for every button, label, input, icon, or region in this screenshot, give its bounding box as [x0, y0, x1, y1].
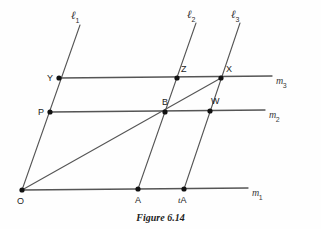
point-label-P: P [38, 108, 44, 117]
transversal-label-l2-subscript: 2 [192, 16, 196, 23]
point-marker-B [162, 109, 167, 114]
point-label-B: B [162, 98, 168, 107]
transversal-label-l1: ℓ1 [71, 6, 80, 24]
parallel-label-m2-base: m [269, 109, 276, 120]
point-label-O: O [17, 197, 24, 206]
point-label-text-P: P [38, 107, 44, 117]
point-label-text-A: A [135, 195, 141, 205]
point-label-text-Y: Y [47, 73, 53, 83]
parallel-line-group [22, 76, 272, 190]
point-label-text-B: B [162, 97, 168, 107]
parallel-label-m3-base: m [276, 75, 283, 86]
diagonal-ray-o-to-x [22, 78, 221, 190]
transversal-line-l1 [22, 25, 80, 190]
point-marker-W [207, 108, 212, 113]
parallel-label-m3: m3 [276, 71, 287, 89]
point-label-tA: tA [178, 196, 187, 205]
point-marker-Z [174, 75, 179, 80]
parallel-label-m2-subscript: 2 [276, 116, 280, 123]
point-marker-O [19, 187, 24, 192]
point-label-X: X [226, 65, 232, 74]
point-marker-P [47, 109, 52, 114]
point-label-W: W [211, 97, 220, 106]
parallel-label-m1-base: m [252, 187, 259, 198]
transversal-label-l2: ℓ2 [187, 5, 196, 23]
point-label-text-tA: A [181, 195, 187, 205]
figure-caption: Figure 6.14 [0, 212, 321, 223]
transversal-label-l1-subscript: 1 [76, 17, 80, 24]
point-marker-X [218, 75, 223, 80]
point-marker-Y [56, 75, 61, 80]
figure-6-14: OAtAPBWYZX ℓ1ℓ2ℓ3 m1m2m3 Figure 6.14 [0, 0, 321, 229]
parallel-label-m2: m2 [269, 105, 280, 123]
parallel-line-m1 [22, 188, 248, 190]
point-label-A: A [135, 196, 141, 205]
point-label-text-W: W [211, 96, 220, 106]
point-label-text-X: X [226, 64, 232, 74]
point-label-text-O: O [17, 196, 24, 206]
parallel-label-m1-subscript: 1 [259, 194, 263, 201]
parallel-label-m3-subscript: 3 [283, 82, 287, 89]
diagonal-line-OX [22, 78, 221, 190]
point-label-Y: Y [47, 74, 53, 83]
parallel-label-m1: m1 [252, 183, 263, 201]
transversal-line-l3 [184, 23, 240, 189]
point-label-text-Z: Z [181, 64, 187, 74]
point-label-Z: Z [181, 65, 187, 74]
point-marker-tA [181, 186, 186, 191]
point-marker-A [135, 186, 140, 191]
transversal-line-group [22, 23, 240, 190]
parallel-line-m3 [59, 76, 272, 78]
transversal-label-l3: ℓ3 [231, 5, 240, 23]
transversal-label-l3-subscript: 3 [236, 16, 240, 23]
parallel-line-m2 [50, 110, 265, 112]
